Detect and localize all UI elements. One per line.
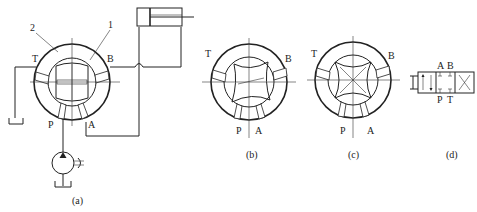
caption-a: (a) (72, 195, 83, 207)
tank-line (15, 67, 36, 118)
port-T-label-c: T (311, 48, 317, 59)
port-B-label-b: B (285, 53, 292, 64)
callout-2: 2 (30, 22, 35, 33)
port-T-label-b: T (205, 48, 211, 59)
port-T-label: T (32, 53, 38, 64)
line-B-to-cylinder (110, 27, 181, 67)
port-A-label-b: A (255, 125, 263, 136)
port-T-label-d: T (447, 94, 453, 105)
caption-d: (d) (446, 149, 458, 161)
port-A-label-d: A (437, 60, 445, 71)
port-B-label-c: B (388, 50, 395, 61)
port-A-label: A (88, 119, 96, 130)
manual-actuator-icon (410, 76, 418, 89)
subfigure-c: T B P A (c) (307, 36, 400, 161)
callout-leader-2 (36, 33, 58, 52)
pump-icon (52, 152, 84, 174)
directional-valve-symbol (418, 72, 474, 93)
ring-port-slots-b (212, 68, 287, 119)
port-B-label-d: B (447, 60, 454, 71)
caption-b: (b) (246, 149, 258, 161)
callout-1: 1 (108, 19, 113, 30)
port-P-label-d: P (437, 94, 443, 105)
caption-c: (c) (348, 149, 359, 161)
diagram-canvas: 2 1 T B P A (0, 0, 477, 212)
port-P-label: P (48, 119, 54, 130)
subfigure-a: 2 1 T B P A (9, 8, 194, 207)
tank-left-icon (9, 118, 23, 124)
port-P-label-b: P (236, 125, 242, 136)
port-P-label-c: P (340, 125, 346, 136)
port-B-label: B (107, 53, 114, 64)
port-A-label-c: A (367, 125, 375, 136)
hydraulic-cylinder-icon (137, 8, 194, 26)
subfigure-d: A B P T (d) (410, 60, 474, 161)
subfigure-b: T B P A (b) (202, 38, 296, 161)
